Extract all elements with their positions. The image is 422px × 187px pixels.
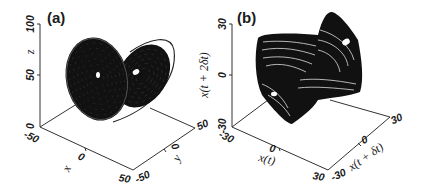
panel-a-x-axis-label: x [58, 162, 74, 174]
panel-a-x-axis [40, 127, 133, 170]
panel-b-floor-axis [330, 100, 390, 117]
panel-a-attractor [58, 31, 181, 126]
panel-a-label: (a) [47, 9, 65, 26]
panel-a-y-tick-label-neg50: -50 [133, 168, 152, 185]
panel-b-y-tick-label-neg30: -30 [329, 166, 348, 183]
panel-b-y-tick-label-0: 0 [359, 133, 370, 146]
panel-a-y-tick-0 [164, 149, 166, 152]
panel-b-x-axis [232, 127, 328, 170]
panel-a-x-tick-label-50: 50 [118, 171, 132, 185]
panel-b-surface [256, 12, 363, 124]
panel-a-z-tick-label-100: 100 [24, 15, 36, 33]
panel-b-x-tick-label-30: 30 [312, 169, 326, 183]
panel-b-z-tick-label-0: 0 [216, 72, 228, 78]
panel-b-back-axis [232, 100, 268, 127]
panel-a: (a) 100 50 0 z -50 0 x 50 -50 0 y 50 [22, 9, 210, 185]
panel-b-x-tick-label-neg30: -30 [217, 128, 236, 145]
panel-a-y-tick-label-0: 0 [169, 141, 182, 152]
panel-b-y-tick-label-30: 30 [388, 110, 404, 126]
panel-a-back-axis [40, 102, 80, 127]
panel-b: (b) 30 0 -30 x(t + 2δt) -30 0 x(t) 30 -3… [197, 9, 404, 183]
panel-a-left-fixed-point [96, 72, 100, 78]
panel-a-z-tick-label-50: 50 [24, 69, 36, 81]
panel-b-lower-fixed-point [271, 92, 277, 96]
panel-a-floor-axis [150, 108, 195, 128]
panel-b-z-tick-label-30: 30 [216, 18, 228, 30]
panel-b-label: (b) [237, 9, 256, 26]
figure: (a) 100 50 0 z -50 0 x 50 -50 0 y 50 (b)… [0, 0, 422, 187]
panel-b-attractor [256, 12, 363, 124]
panel-a-y-axis-label: y [169, 152, 185, 165]
panel-b-z-axis-label: x(t + 2δt) [197, 52, 211, 99]
panel-a-z-axis-label: z [23, 49, 37, 55]
panel-a-x-tick-label-neg50: -50 [22, 128, 41, 145]
panel-a-y-tick-label-50: 50 [194, 116, 210, 132]
panel-a-x-tick-label-0: 0 [77, 150, 88, 163]
